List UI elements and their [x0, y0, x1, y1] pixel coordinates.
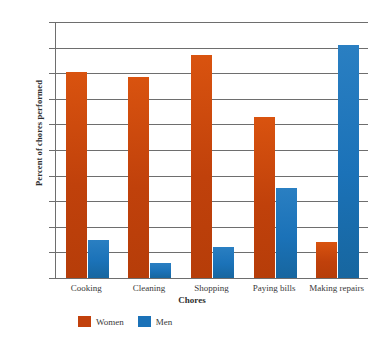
bar-cooking-men: [88, 240, 109, 278]
legend-item-men[interactable]: Men: [138, 316, 173, 327]
category-label-shopping: Shopping: [180, 283, 243, 293]
bar-cleaning-women: [128, 77, 149, 278]
legend-item-women[interactable]: Women: [78, 316, 124, 327]
category-label-making-repairs: Making repairs: [305, 283, 368, 293]
bar-making-repairs-women: [316, 242, 337, 278]
legend-swatch-women-icon: [78, 316, 91, 327]
category-label-paying-bills: Paying bills: [243, 283, 306, 293]
legend-label-women: Women: [96, 317, 124, 327]
bar-cleaning-men: [150, 263, 171, 278]
category-label-cooking: Cooking: [55, 283, 118, 293]
chart-legend: WomenMen: [78, 316, 172, 327]
bar-chart: Percent of chores performed 010203040506…: [0, 0, 384, 347]
category-label-cleaning: Cleaning: [118, 283, 181, 293]
gridline-0: [55, 278, 368, 279]
bar-paying-bills-men: [276, 188, 297, 278]
bar-making-repairs-men: [338, 45, 359, 278]
bar-paying-bills-women: [254, 117, 275, 278]
x-axis-title: Chores: [0, 295, 384, 305]
legend-label-men: Men: [156, 317, 173, 327]
bars-layer: [56, 22, 368, 278]
legend-swatch-men-icon: [138, 316, 151, 327]
bar-shopping-men: [213, 247, 234, 278]
bar-shopping-women: [191, 55, 212, 278]
y-axis-title: Percent of chores performed: [34, 48, 44, 218]
bar-cooking-women: [66, 72, 87, 278]
